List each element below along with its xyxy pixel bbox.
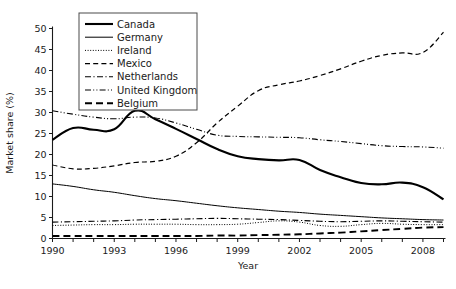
x-tick-label: 2002 (287, 245, 311, 256)
legend-label-germany: Germany (117, 32, 163, 43)
legend-label-canada: Canada (117, 19, 155, 30)
y-tick-label: 45 (34, 44, 46, 55)
series-line-netherlands (53, 218, 444, 222)
x-tick-label: 2008 (411, 245, 435, 256)
series-line-belgium (53, 227, 444, 236)
y-axis-ticks: 05101520253035404550 (34, 23, 52, 244)
plot-area: 05101520253035404550 1990199319961999200… (4, 13, 446, 271)
chart-canvas: 05101520253035404550 1990199319961999200… (0, 0, 456, 289)
x-tick-label: 2005 (349, 245, 373, 256)
y-tick-label: 20 (34, 149, 46, 160)
y-tick-label: 35 (34, 86, 46, 97)
legend-label-mexico: Mexico (117, 58, 152, 69)
x-tick-label: 1993 (102, 245, 126, 256)
x-tick-label: 1999 (226, 245, 250, 256)
x-axis-ticks: 1990199319961999200220052008 (40, 239, 443, 256)
y-tick-label: 15 (34, 170, 46, 181)
y-tick-label: 10 (34, 191, 46, 202)
x-tick-label: 1996 (164, 245, 188, 256)
legend-label-united-kingdom: United Kingdom (117, 85, 197, 96)
y-tick-label: 0 (40, 233, 46, 244)
x-tick-label: 1990 (40, 245, 64, 256)
series-line-germany (53, 184, 444, 220)
y-tick-label: 30 (34, 107, 46, 118)
x-axis-title: Year (237, 260, 258, 271)
series-line-ireland (53, 221, 444, 227)
y-tick-label: 5 (40, 212, 46, 223)
y-tick-label: 25 (34, 128, 46, 139)
series-line-canada (53, 110, 444, 199)
legend-label-belgium: Belgium (117, 98, 158, 109)
y-tick-label: 50 (34, 23, 46, 34)
legend-label-ireland: Ireland (117, 45, 152, 56)
chart-legend: CanadaGermanyIrelandMexicoNetherlandsUni… (79, 13, 197, 110)
market-share-line-chart: 05101520253035404550 1990199319961999200… (0, 0, 456, 289)
legend-label-netherlands: Netherlands (117, 71, 178, 82)
y-axis-title: Market share (%) (4, 92, 15, 173)
y-tick-label: 40 (34, 65, 46, 76)
